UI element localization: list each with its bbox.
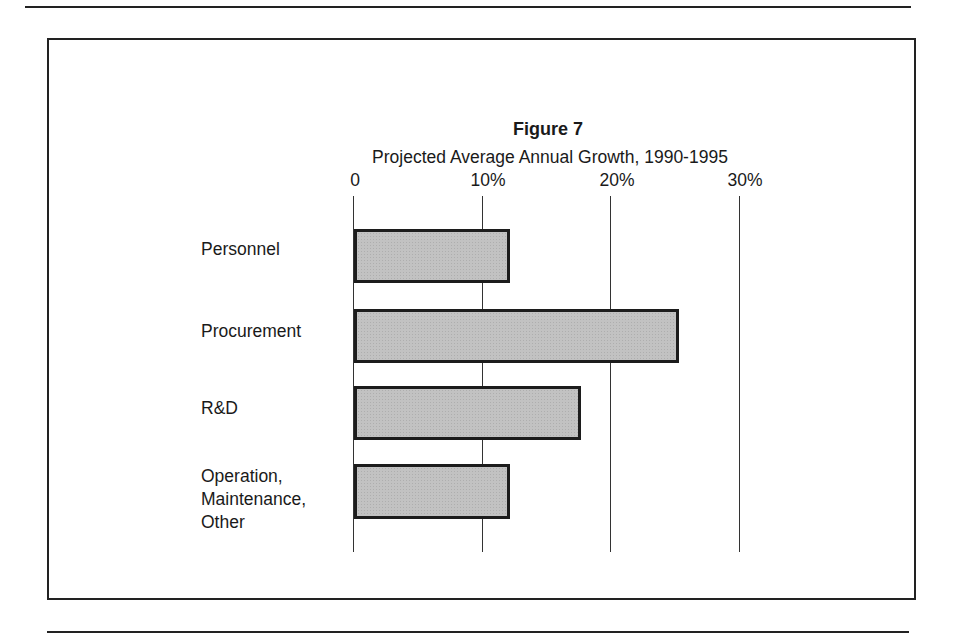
gridline-30 bbox=[739, 196, 740, 552]
category-label-operation-line2: Maintenance, bbox=[201, 488, 306, 511]
bar-operation bbox=[354, 464, 510, 519]
figure-label: Figure 7 bbox=[448, 119, 648, 140]
category-label-procurement: Procurement bbox=[201, 320, 301, 343]
figure-subtitle: Projected Average Annual Growth, 1990-19… bbox=[300, 147, 800, 168]
category-label-operation-line3: Other bbox=[201, 511, 306, 534]
gridline-20 bbox=[610, 196, 611, 552]
bar-rd bbox=[354, 386, 581, 440]
bottom-rule bbox=[47, 631, 909, 633]
bar-personnel bbox=[354, 229, 510, 283]
x-tick-30: 30% bbox=[727, 170, 762, 191]
category-label-operation: Operation, Maintenance, Other bbox=[201, 465, 306, 534]
x-tick-0: 0 bbox=[350, 170, 360, 191]
x-tick-20: 20% bbox=[599, 170, 634, 191]
x-tick-10: 10% bbox=[470, 170, 505, 191]
category-label-personnel: Personnel bbox=[201, 238, 280, 261]
bar-procurement bbox=[354, 309, 679, 363]
category-label-rd: R&D bbox=[201, 397, 238, 420]
top-rule bbox=[25, 6, 911, 8]
category-label-operation-line1: Operation, bbox=[201, 465, 306, 488]
